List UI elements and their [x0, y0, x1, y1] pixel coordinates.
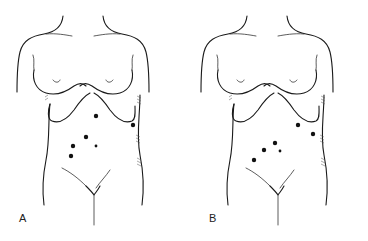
- port-site-dot: [84, 135, 88, 139]
- port-site-dots: [69, 114, 315, 162]
- torso-panel-b: [201, 16, 333, 225]
- panel-label-a: A: [19, 212, 26, 224]
- port-site-dot: [94, 114, 98, 118]
- port-site-dot: [279, 150, 282, 153]
- port-site-dot: [95, 145, 98, 148]
- port-site-dot: [71, 144, 75, 148]
- port-site-dot: [273, 141, 277, 145]
- torso-panel-a: [17, 16, 149, 225]
- figure-canvas: [0, 0, 368, 241]
- port-site-dot: [311, 132, 315, 136]
- port-site-dot: [131, 123, 135, 127]
- port-site-dot: [69, 154, 73, 158]
- port-site-dot: [262, 148, 266, 152]
- port-site-dot: [252, 158, 256, 162]
- port-site-dot: [296, 123, 300, 127]
- panel-label-b: B: [209, 212, 216, 224]
